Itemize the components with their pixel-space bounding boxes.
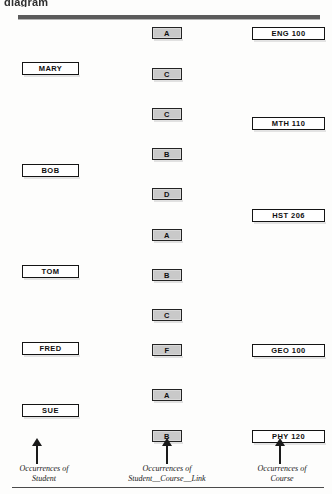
- grade-node: C: [152, 309, 182, 321]
- course-node-label: ENG 100: [272, 29, 306, 38]
- caption-course-line1: Occurrences of: [232, 464, 332, 474]
- caption-link: Occurrences of Student__Course__Link: [107, 464, 227, 484]
- grade-node: C: [152, 68, 182, 80]
- grade-node: A: [152, 229, 182, 241]
- grade-node-label: C: [164, 311, 170, 320]
- student-node: TOM: [22, 265, 79, 278]
- grade-node: A: [152, 389, 182, 401]
- figure-canvas: diagram MARYBOBTOMFREDSUE ACCBDABCFAB EN…: [0, 0, 332, 494]
- caption-course: Occurrences of Course: [232, 464, 332, 484]
- course-node: PHY 120: [252, 430, 325, 443]
- caption-link-line2: Student__Course__Link: [107, 474, 227, 484]
- grade-node-label: A: [164, 29, 170, 38]
- clipped-header-text: diagram: [4, 0, 94, 7]
- course-node-label: GEO 100: [271, 346, 305, 355]
- grade-node: D: [152, 188, 182, 200]
- course-node: GEO 100: [252, 344, 325, 357]
- course-node-label: HST 206: [272, 211, 305, 220]
- student-node-label: MARY: [39, 64, 63, 73]
- grade-node-label: F: [164, 346, 169, 355]
- caption-course-line2: Course: [232, 474, 332, 484]
- grade-node: B: [152, 148, 182, 160]
- student-node-label: BOB: [41, 166, 59, 175]
- student-node: MARY: [22, 62, 79, 75]
- student-node-label: TOM: [42, 267, 60, 276]
- course-node-label: MTH 110: [272, 119, 306, 128]
- bottom-divider-rule: [12, 487, 324, 488]
- top-divider-rule: [18, 15, 320, 19]
- grade-node: C: [152, 108, 182, 120]
- arrow-shaft: [36, 444, 38, 464]
- grade-node: F: [152, 344, 182, 356]
- grade-node-label: A: [164, 231, 170, 240]
- grade-node: A: [152, 27, 182, 39]
- caption-student: Occurrences of Student: [0, 464, 94, 484]
- grade-node-label: D: [164, 190, 170, 199]
- student-node-label: SUE: [42, 406, 59, 415]
- arrow-shaft: [166, 444, 168, 464]
- course-node: HST 206: [252, 209, 325, 222]
- grade-node-label: B: [164, 150, 170, 159]
- course-node: MTH 110: [252, 117, 325, 130]
- caption-link-line1: Occurrences of: [107, 464, 227, 474]
- grade-node-label: B: [164, 271, 170, 280]
- course-node: ENG 100: [252, 27, 325, 40]
- student-node: BOB: [22, 164, 79, 177]
- caption-student-line1: Occurrences of: [0, 464, 94, 474]
- arrow-shaft: [279, 444, 281, 464]
- link-arrow: [161, 438, 173, 464]
- grade-node: B: [152, 269, 182, 281]
- student-node-label: FRED: [39, 344, 61, 353]
- caption-student-line2: Student: [0, 474, 94, 484]
- student-arrow: [31, 438, 43, 464]
- course-arrow: [274, 438, 286, 464]
- grade-node-label: C: [164, 70, 170, 79]
- student-node: FRED: [22, 342, 79, 355]
- grade-node-label: C: [164, 110, 170, 119]
- grade-node-label: A: [164, 391, 170, 400]
- student-node: SUE: [22, 404, 79, 417]
